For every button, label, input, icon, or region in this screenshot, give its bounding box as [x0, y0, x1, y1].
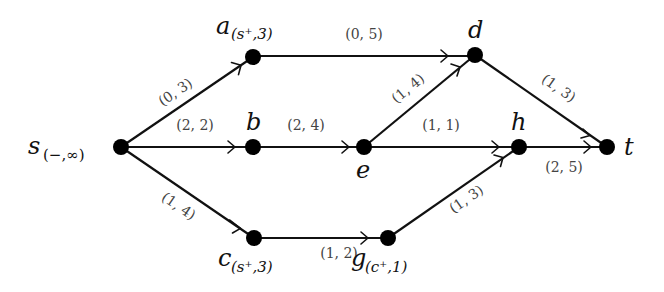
nodes: s (−,∞) a (s⁺,3) b c (s⁺,3) d e	[28, 12, 634, 276]
arrow-head-icon	[230, 220, 241, 233]
edge-g-h: (1, 3)	[388, 147, 519, 238]
node-subscript: (−,∞)	[43, 146, 85, 164]
node-e: e	[356, 139, 372, 184]
edge-e-d: (1, 4)	[364, 55, 475, 147]
edge-label: (1, 4)	[388, 70, 427, 106]
edge-label: (0, 5)	[345, 26, 383, 42]
node-d: d	[467, 16, 483, 63]
node-subscript: (c⁺,1)	[365, 258, 407, 276]
node-name: a	[216, 12, 230, 40]
node-subscript: (s⁺,3)	[231, 258, 273, 276]
edge-label: (2, 2)	[176, 117, 214, 133]
node-name: s	[28, 132, 40, 160]
edge-s-b: (2, 2)	[121, 117, 253, 153]
node-name: c	[218, 244, 231, 272]
edge-d-t: (1, 3)	[475, 55, 607, 147]
edge-label: (0, 3)	[155, 75, 195, 109]
node-name: b	[246, 108, 261, 136]
node-subscript: (s⁺,3)	[231, 25, 273, 43]
edge-c-g: (1, 2)	[254, 232, 388, 261]
node-t: t	[599, 133, 634, 161]
edge-label: (1, 3)	[446, 182, 486, 217]
edge-s-c: (1, 4)	[121, 147, 254, 238]
edge-h-t: (2, 5)	[519, 141, 607, 175]
node-b: b	[245, 108, 261, 155]
edge-e-h: (1, 1)	[364, 117, 519, 153]
flow-network-diagram: (0, 3) (2, 2) (1, 4) (0, 5) (2, 4)	[0, 0, 664, 292]
edge-label: (1, 3)	[539, 71, 579, 106]
node-h: h	[511, 108, 527, 155]
edge-label: (2, 4)	[287, 117, 325, 133]
node-name: t	[624, 133, 634, 161]
node-name: d	[468, 16, 483, 44]
edge-label: (2, 5)	[545, 159, 583, 175]
node-name: h	[511, 108, 526, 136]
edge-label: (1, 4)	[159, 189, 199, 223]
node-s: s (−,∞)	[28, 132, 129, 164]
edge-label: (1, 1)	[422, 117, 460, 133]
edge-b-e: (2, 4)	[253, 117, 364, 153]
edge-a-d: (0, 5)	[253, 26, 475, 62]
edge-s-a: (0, 3)	[121, 57, 253, 147]
node-name: e	[356, 156, 370, 184]
